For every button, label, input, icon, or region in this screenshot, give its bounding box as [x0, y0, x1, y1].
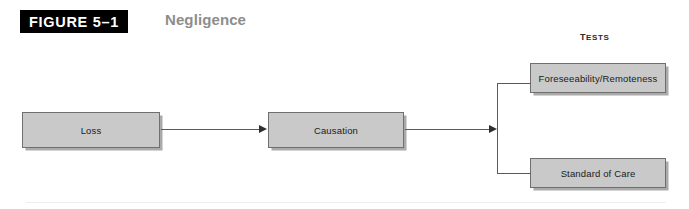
- connector-bracket-to-standard-of-care: [497, 173, 531, 174]
- connector-tests-bracket-spine: [497, 83, 498, 174]
- node-loss: Loss: [22, 112, 160, 148]
- node-foreseeability-remoteness: Foreseeability/Remoteness: [530, 63, 666, 93]
- figure-number-badge: FIGURE 5–1: [20, 10, 128, 33]
- node-standard-of-care: Standard of Care: [530, 158, 666, 188]
- connector-loss-to-causation: [161, 129, 260, 130]
- node-causation: Causation: [268, 112, 404, 148]
- tests-group-label: Tests: [580, 28, 609, 43]
- page-footer-rule: [26, 202, 666, 203]
- figure-title: Negligence: [165, 11, 246, 28]
- connector-bracket-to-foreseeability: [497, 83, 531, 84]
- arrowhead-into-causation-icon: [259, 125, 267, 133]
- arrowhead-into-tests-icon: [489, 125, 497, 133]
- connector-causation-to-tests: [405, 129, 489, 130]
- figure-diagram: FIGURE 5–1 Negligence Tests Loss Causati…: [0, 0, 689, 209]
